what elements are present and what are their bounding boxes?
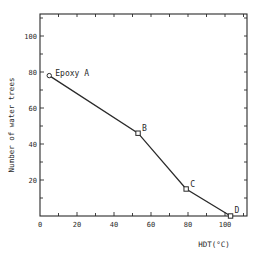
data-point-marker	[136, 131, 140, 135]
x-tick-label: 0	[38, 221, 42, 229]
x-tick-label: 80	[184, 221, 192, 229]
x-tick-label: 60	[147, 221, 155, 229]
data-point-marker	[47, 73, 51, 77]
y-tick-label: 80	[29, 69, 37, 77]
x-axis-title: HDT(°C)	[198, 240, 230, 249]
y-tick-label: 100	[24, 33, 37, 41]
y-axis-title: Number of water trees	[7, 78, 16, 173]
data-series: Epoxy ABCD	[47, 69, 240, 219]
x-tick-label: 40	[110, 221, 118, 229]
axis-ticks	[40, 14, 247, 216]
data-point-marker	[228, 214, 232, 218]
line-chart: 020406080100 20406080100 Epoxy ABCD HDT(…	[0, 0, 258, 258]
data-point-label: Epoxy A	[55, 69, 89, 78]
y-tick-labels: 20406080100	[24, 33, 37, 185]
y-tick-label: 20	[29, 177, 37, 185]
y-tick-label: 60	[29, 105, 37, 113]
series-line	[49, 76, 230, 216]
x-tick-label: 20	[73, 221, 81, 229]
plot-frame	[40, 14, 247, 216]
data-point-label: C	[190, 180, 195, 189]
plot-border	[40, 14, 247, 216]
y-tick-label: 40	[29, 141, 37, 149]
data-point-label: B	[142, 124, 147, 133]
x-tick-labels: 020406080100	[38, 221, 231, 229]
data-point-marker	[184, 187, 188, 191]
data-point-label: D	[235, 206, 240, 215]
x-tick-label: 100	[219, 221, 232, 229]
